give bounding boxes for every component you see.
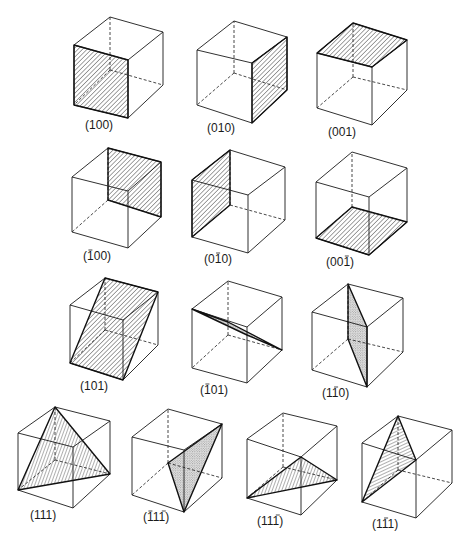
cube-c010: (010) — [197, 21, 287, 135]
cube-edge — [301, 426, 337, 457]
cube-cm101: (101) — [192, 281, 282, 397]
cube-c1m10: (110) — [312, 284, 403, 400]
cube-edge — [416, 483, 452, 518]
cube-c101: (101) — [70, 278, 158, 393]
cube-edge — [230, 150, 285, 167]
cube-edge — [74, 17, 110, 45]
cube-edge — [72, 148, 108, 177]
cube-c001: (001) — [317, 23, 407, 139]
cube-edge — [192, 281, 228, 309]
cube-edge — [132, 437, 184, 450]
cube-edge — [317, 108, 372, 125]
cube-cm11m1: (111) — [132, 409, 222, 524]
cube-edge — [110, 17, 163, 32]
cube-edge — [248, 167, 285, 195]
hidden-edge — [353, 77, 407, 90]
miller-index-label: (110) — [322, 386, 349, 400]
miller-plane — [362, 416, 416, 502]
cube-edge — [247, 350, 282, 383]
hidden-edge — [398, 470, 452, 483]
cube-edge — [283, 413, 337, 426]
cube-edge — [398, 416, 452, 430]
hidden-edge — [197, 73, 234, 105]
cube-diagram-canvas: (100)(010)(001)(100)(010)(001)(101)(101)… — [0, 0, 474, 544]
cube-edge — [132, 409, 168, 437]
miller-plane — [348, 284, 367, 387]
cube-edge — [197, 21, 234, 50]
miller-index-label: (101) — [200, 383, 228, 397]
cube-edge — [316, 152, 352, 182]
hidden-edge — [317, 77, 353, 108]
cube-cm100: (100) — [72, 148, 161, 263]
cube-edge — [248, 220, 285, 253]
miller-plane — [316, 207, 407, 255]
cube-c100: (100) — [74, 17, 163, 132]
cube-edge — [192, 237, 248, 253]
miller-index-label: (111) — [257, 514, 283, 528]
cube-edge — [228, 281, 282, 297]
hidden-edge — [312, 339, 348, 370]
hidden-edge — [132, 463, 168, 495]
cube-edge — [192, 368, 247, 383]
cube-edge — [367, 352, 403, 387]
cube-edge — [128, 85, 163, 118]
hidden-edge — [72, 200, 108, 232]
cube-edge — [128, 32, 163, 60]
miller-index-label: (010) — [207, 121, 235, 135]
miller-index-label: (001) — [326, 255, 354, 269]
miller-indices-figure: (100)(010)(001)(100)(010)(001)(101)(101)… — [0, 0, 474, 544]
cube-edge — [247, 498, 301, 515]
cube-edge — [73, 421, 110, 447]
cube-edge — [247, 297, 282, 327]
cube-edge — [367, 298, 403, 327]
cube-edge — [416, 430, 452, 460]
miller-plane — [192, 150, 230, 237]
cube-edge — [372, 90, 407, 125]
cube-edge — [168, 409, 222, 424]
miller-plane — [168, 424, 222, 512]
cube-c11m1: (111) — [247, 413, 337, 528]
miller-index-label: (101) — [80, 379, 108, 393]
cube-c00m1: (001) — [316, 152, 407, 269]
cube-edge — [18, 490, 73, 508]
cubes-layer: (100)(010)(001)(100)(010)(001)(101)(101)… — [18, 17, 452, 531]
cube-edge — [197, 50, 252, 63]
cube-edge — [362, 502, 416, 518]
cube-edge — [247, 439, 301, 457]
miller-index-label: (111) — [372, 517, 398, 531]
cube-edge — [312, 370, 367, 387]
cube-edge — [316, 182, 369, 197]
cube-c111: (111) — [18, 407, 110, 522]
miller-plane — [70, 278, 158, 380]
hidden-edge — [230, 205, 285, 220]
miller-index-label: (100) — [85, 118, 113, 132]
cube-c0m10: (010) — [192, 150, 285, 266]
cube-edge — [247, 413, 283, 439]
hidden-edge — [192, 335, 228, 368]
cube-edge — [312, 284, 348, 312]
miller-index-label: (111) — [30, 508, 56, 522]
miller-index-label: (010) — [204, 252, 232, 266]
miller-index-label: (100) — [83, 249, 111, 263]
cube-edge — [72, 232, 128, 248]
miller-plane — [108, 148, 161, 217]
plane-outline — [192, 309, 282, 350]
miller-index-label: (001) — [328, 125, 356, 139]
cube-edge — [369, 168, 407, 197]
cube-edge — [128, 217, 161, 248]
cube-c1m11: (111) — [362, 416, 452, 531]
miller-plane — [317, 23, 407, 67]
miller-plane — [18, 407, 110, 490]
miller-index-label: (111) — [143, 510, 169, 524]
cube-edge — [234, 21, 287, 37]
cube-edge — [352, 152, 407, 168]
cube-edge — [348, 284, 403, 298]
